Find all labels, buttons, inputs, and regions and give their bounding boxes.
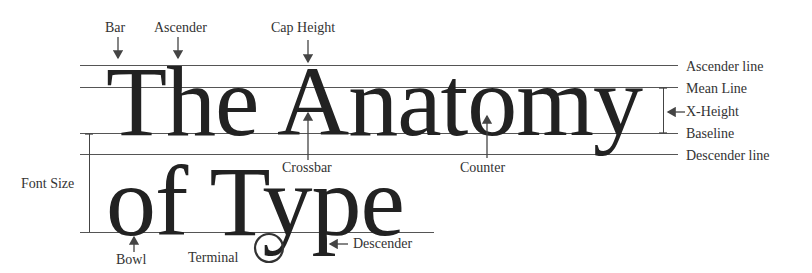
label-cap-height: Cap Height [271,21,335,35]
label-bowl: Bowl [116,253,146,267]
terminal-circle-icon [255,234,283,262]
label-font-size: Font Size [21,177,74,191]
label-ascender-line: Ascender line [686,60,763,74]
label-counter: Counter [460,161,505,175]
label-ascender: Ascender [154,21,207,35]
label-baseline: Baseline [686,127,734,141]
label-crossbar: Crossbar [282,161,332,175]
label-terminal: Terminal [188,251,238,265]
label-x-height: X-Height [686,105,739,119]
label-mean-line: Mean Line [686,82,747,96]
label-bar: Bar [105,21,125,35]
label-descender: Descender [353,237,412,251]
label-descender-line: Descender line [686,149,770,163]
